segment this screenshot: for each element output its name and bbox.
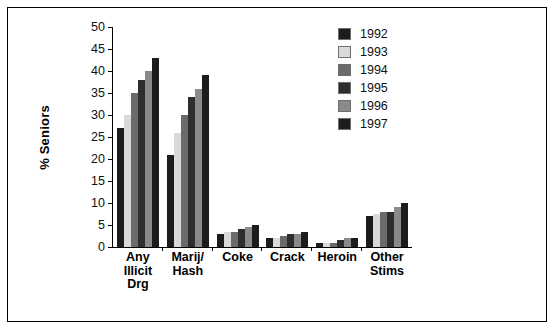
y-axis-title-text: % Seniors bbox=[37, 105, 52, 170]
x-axis-label: Crack bbox=[262, 251, 312, 292]
legend-item: 1996 bbox=[338, 97, 388, 114]
legend-item: 1995 bbox=[338, 79, 388, 96]
bar bbox=[124, 115, 131, 247]
bar bbox=[351, 238, 358, 247]
y-axis-tick-mark bbox=[108, 159, 112, 160]
bar bbox=[401, 203, 408, 247]
bar bbox=[287, 234, 294, 247]
bar bbox=[366, 216, 373, 247]
y-axis-tick-mark bbox=[108, 137, 112, 138]
bar-group bbox=[213, 27, 263, 247]
bar bbox=[174, 133, 181, 247]
bar bbox=[330, 243, 337, 247]
bar bbox=[117, 128, 124, 247]
bar bbox=[131, 93, 138, 247]
bar bbox=[280, 236, 287, 247]
legend-swatch bbox=[338, 28, 351, 40]
x-axis-label-line: Coke bbox=[213, 251, 263, 265]
legend-item: 1994 bbox=[338, 61, 388, 78]
x-axis-label-line: Any bbox=[113, 251, 163, 265]
y-axis-tick-mark bbox=[108, 115, 112, 116]
bar bbox=[344, 238, 351, 247]
legend-swatch bbox=[338, 118, 351, 130]
bar bbox=[323, 243, 330, 247]
bar bbox=[152, 58, 159, 247]
bar bbox=[217, 234, 224, 247]
x-axis-label-line: Other bbox=[362, 251, 412, 265]
bar bbox=[188, 97, 195, 247]
legend: 199219931994199519961997 bbox=[338, 25, 388, 132]
legend-swatch bbox=[338, 100, 351, 112]
legend-swatch bbox=[338, 46, 351, 58]
bar-group bbox=[163, 27, 213, 247]
legend-item: 1992 bbox=[338, 25, 388, 42]
x-axis-label-line: Hash bbox=[163, 265, 213, 279]
bar bbox=[301, 232, 308, 247]
bar bbox=[245, 227, 252, 247]
bar bbox=[316, 243, 323, 247]
x-axis-label: OtherStims bbox=[362, 251, 412, 292]
bar bbox=[380, 212, 387, 247]
bar bbox=[273, 238, 280, 247]
bar bbox=[337, 240, 344, 247]
x-axis-label-line: Heroin bbox=[312, 251, 362, 265]
bar bbox=[266, 238, 273, 247]
y-axis-tick-mark bbox=[108, 71, 112, 72]
x-axis-labels: AnyIllicitDrgMarij/HashCokeCrackHeroinOt… bbox=[113, 251, 412, 292]
legend-label: 1996 bbox=[360, 99, 388, 113]
bar bbox=[202, 75, 209, 247]
bar bbox=[387, 212, 394, 247]
bar-group bbox=[113, 27, 163, 247]
x-axis-label-line: Illicit bbox=[113, 265, 163, 279]
legend-swatch bbox=[338, 64, 351, 76]
x-axis-label-line: Crack bbox=[262, 251, 312, 265]
legend-label: 1997 bbox=[360, 117, 388, 131]
y-axis-tick-mark bbox=[108, 203, 112, 204]
y-axis-tick-mark bbox=[108, 181, 112, 182]
y-axis-tick-mark bbox=[108, 247, 112, 248]
x-axis-label: Coke bbox=[213, 251, 263, 292]
bar bbox=[252, 225, 259, 247]
x-axis-label-line: Drg bbox=[113, 278, 163, 292]
bar bbox=[294, 234, 301, 247]
y-axis-title: % Seniors bbox=[34, 27, 54, 248]
legend-label: 1995 bbox=[360, 81, 388, 95]
bar bbox=[231, 232, 238, 247]
bar bbox=[195, 89, 202, 247]
bar bbox=[181, 115, 188, 247]
x-axis-label: Heroin bbox=[312, 251, 362, 292]
bar bbox=[224, 232, 231, 247]
y-axis-tick-mark bbox=[108, 93, 112, 94]
chart-figure: % Seniors 05101520253035404550 AnyIllici… bbox=[0, 0, 554, 329]
y-axis-tick-mark bbox=[108, 225, 112, 226]
bar bbox=[145, 71, 152, 247]
bar bbox=[238, 229, 245, 247]
legend-label: 1993 bbox=[360, 45, 388, 59]
legend-item: 1997 bbox=[338, 115, 388, 132]
x-axis-label-line: Stims bbox=[362, 265, 412, 279]
legend-swatch bbox=[338, 82, 351, 94]
bar bbox=[394, 207, 401, 247]
legend-label: 1992 bbox=[360, 27, 388, 41]
bar bbox=[373, 214, 380, 247]
x-axis-label: Marij/Hash bbox=[163, 251, 213, 292]
x-axis-label: AnyIllicitDrg bbox=[113, 251, 163, 292]
x-axis-label-line: Marij/ bbox=[163, 251, 213, 265]
y-axis-tick-mark bbox=[108, 49, 112, 50]
legend-label: 1994 bbox=[360, 63, 388, 77]
y-axis-tick-mark bbox=[108, 27, 112, 28]
bar bbox=[138, 80, 145, 247]
bar-group bbox=[262, 27, 312, 247]
bar bbox=[167, 155, 174, 247]
legend-item: 1993 bbox=[338, 43, 388, 60]
